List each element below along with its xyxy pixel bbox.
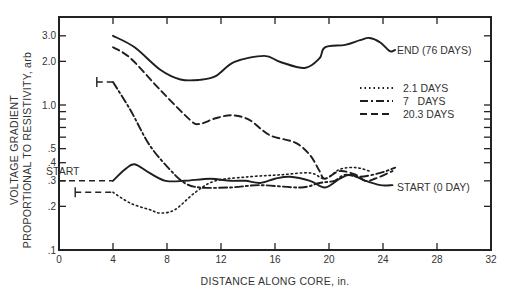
y-tick-label: 1.0: [42, 100, 56, 111]
legend-label: 2.1 DAYS: [403, 82, 448, 94]
x-tick-label: 24: [377, 254, 389, 265]
x-tick-label: 8: [164, 254, 170, 265]
resistivity-chart: 048121620242832 .1.2.3.4.51.02.03.0 2.1 …: [0, 0, 511, 295]
y-tick-label: .5: [48, 143, 57, 154]
series-line: [113, 47, 392, 181]
x-tick-label: 12: [215, 254, 227, 265]
series-7-days: [97, 77, 395, 188]
y-axis-label-line1: VOLTAGE GRADIENT: [8, 95, 20, 205]
x-tick-label: 16: [269, 254, 281, 265]
x-tick-label: 0: [56, 254, 62, 265]
annotation-start: START: [46, 165, 80, 177]
x-tick-label: 4: [110, 254, 116, 265]
legend-label: 7 DAYS: [403, 95, 445, 107]
y-tick-label: 2.0: [42, 56, 56, 67]
annotation-start-0-day: START (0 DAY): [397, 181, 470, 193]
x-axis-label: DISTANCE ALONG CORE, in.: [201, 275, 350, 287]
data-series: [59, 36, 395, 213]
series-end-76-days: [113, 36, 395, 81]
series-20-3-days: [113, 47, 392, 181]
x-tick-label: 20: [323, 254, 335, 265]
y-axis-ticks: .1.2.3.4.51.02.03.0: [42, 30, 491, 255]
annotation-end-76-days: END (76 DAYS): [397, 44, 472, 56]
y-axis-label-line2: PROPORTIONAL TO RESISTIVITY, arb: [21, 52, 33, 248]
legend-label: 20.3 DAYS: [403, 108, 454, 120]
legend: 2.1 DAYS7 DAYS20.3 DAYS: [360, 82, 454, 120]
y-tick-label: 3.0: [42, 30, 56, 41]
y-tick-label: .2: [48, 201, 57, 212]
chart-canvas: 048121620242832 .1.2.3.4.51.02.03.0 2.1 …: [0, 0, 511, 295]
series-line: [113, 36, 395, 81]
x-tick-label: 32: [485, 254, 497, 265]
y-tick-label: .1: [48, 245, 57, 256]
x-tick-label: 28: [431, 254, 443, 265]
series-line: [113, 82, 395, 188]
